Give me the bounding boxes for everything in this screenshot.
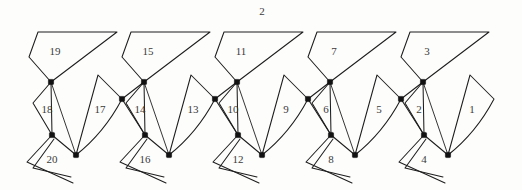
right-region-label: 9: [283, 103, 289, 115]
right-region-label: 17: [95, 103, 107, 115]
junction-up-link: [308, 82, 330, 99]
diagram-canvas: 1918172015141316111091276583214 2: [0, 0, 522, 190]
joint-junction: [305, 96, 310, 101]
caption-top-label: 2: [259, 5, 265, 17]
left-region-label: 14: [135, 103, 147, 115]
joint-junction: [398, 96, 403, 101]
linkage-unit: 7658: [306, 32, 424, 183]
junction-up-link: [122, 82, 144, 99]
upper-region-outline: [29, 32, 117, 82]
linkage-unit: 19181720: [27, 32, 145, 183]
claw-region-label: 16: [140, 153, 152, 165]
joint-upper: [48, 79, 53, 84]
unit-group: 1918172015141316111091276583214: [27, 32, 494, 183]
joint-bottom: [445, 152, 450, 157]
upper-region-label: 7: [331, 45, 337, 57]
right-region-label: 1: [469, 103, 475, 115]
joint-bottom: [73, 152, 78, 157]
right-region-outline: [262, 75, 308, 155]
joint-bottom: [352, 152, 357, 157]
joint-mid-left: [328, 132, 333, 137]
linkage-unit: 15141316: [120, 32, 238, 183]
right-region-outline: [169, 75, 215, 155]
junction-up-link: [215, 82, 237, 99]
upper-region-label: 19: [50, 45, 62, 57]
upper-region-outline: [215, 32, 303, 82]
joint-mid-left: [235, 132, 240, 137]
junction-up-link: [401, 82, 423, 99]
joint-mid-left: [142, 132, 147, 137]
upper-region-outline: [308, 32, 396, 82]
right-region-outline: [76, 75, 122, 155]
upper-region-outline: [122, 32, 210, 82]
claw-region-label: 8: [328, 153, 334, 165]
joint-mid-left: [49, 132, 54, 137]
right-region-label: 5: [376, 103, 382, 115]
joint-mid-left: [421, 132, 426, 137]
joint-bottom: [166, 152, 171, 157]
left-region-label: 2: [416, 103, 422, 115]
joint-upper: [327, 79, 332, 84]
upper-region-label: 3: [424, 45, 430, 57]
linkage-diagram: 1918172015141316111091276583214 2: [0, 0, 522, 190]
joint-upper: [420, 79, 425, 84]
upper-region-label: 11: [236, 45, 247, 57]
right-region-label: 13: [188, 103, 200, 115]
joint-bottom: [259, 152, 264, 157]
joint-upper: [141, 79, 146, 84]
joint-junction: [119, 96, 124, 101]
joint-junction: [212, 96, 217, 101]
linkage-unit: 3214: [399, 32, 494, 183]
left-region-label: 10: [228, 103, 240, 115]
upper-region-label: 15: [143, 45, 155, 57]
linkage-unit: 1110912: [213, 32, 331, 183]
upper-region-outline: [401, 32, 489, 82]
left-region-label: 18: [42, 103, 54, 115]
joint-upper: [234, 79, 239, 84]
left-region-label: 6: [323, 103, 329, 115]
right-region-outline: [448, 75, 494, 155]
claw-region-label: 4: [421, 153, 427, 165]
claw-region-label: 12: [233, 153, 244, 165]
right-region-outline: [355, 75, 401, 155]
claw-region-label: 20: [47, 153, 59, 165]
